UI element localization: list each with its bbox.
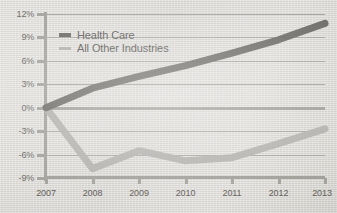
x-axis-tick [185, 178, 188, 184]
x-axis-tick [92, 178, 95, 184]
x-axis-label: 2013 [312, 188, 332, 198]
legend-item-health-care: Health Care [59, 29, 169, 41]
x-axis-tick [324, 178, 327, 184]
y-axis-label: 12% [0, 9, 34, 19]
y-axis-label: 0% [0, 103, 34, 113]
legend-label: All Other Industries [77, 42, 169, 54]
x-axis-label: 2012 [269, 188, 289, 198]
y-axis-label: 3% [0, 79, 34, 89]
x-axis-label: 2008 [83, 188, 103, 198]
x-axis-tick [278, 178, 281, 184]
y-axis-label: -3% [0, 126, 34, 136]
x-axis-tick [138, 178, 141, 184]
x-axis-label: 2011 [223, 188, 242, 198]
chart-legend: Health Care All Other Industries [59, 29, 169, 55]
y-axis-label: -6% [0, 150, 34, 160]
x-axis-label: 2009 [129, 188, 149, 198]
chart-container: 12% 9% 6% 3% 0% -3% -6% -9% [0, 0, 337, 213]
x-axis-label: 2007 [36, 188, 56, 198]
x-axis-tick [231, 178, 234, 184]
y-axis-label: 6% [0, 56, 34, 66]
x-axis-tick [45, 178, 48, 184]
legend-swatch-dash-icon [59, 47, 71, 50]
x-axis-label: 2010 [176, 188, 196, 198]
legend-label: Health Care [77, 29, 135, 41]
series-line-all-other-industries [46, 108, 325, 169]
legend-swatch-dash-icon [59, 33, 71, 37]
legend-item-all-other-industries: All Other Industries [59, 42, 169, 54]
y-axis-label: 9% [0, 32, 34, 42]
y-axis-label: -9% [0, 173, 34, 183]
